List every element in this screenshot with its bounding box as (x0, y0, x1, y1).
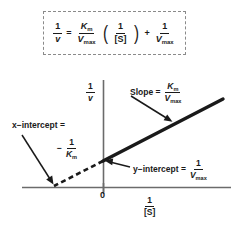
regression-line-solid (103, 99, 223, 161)
y-intercept-annotation-text: y−intercept = (133, 165, 186, 174)
y-intercept-arrow (105, 158, 131, 167)
extrapolation-line-dashed (54, 161, 103, 186)
x-intercept-numerator: 1 (67, 138, 76, 149)
x-intercept-minus-sign: − (57, 144, 62, 153)
y-axis-label-denominator: v (86, 93, 95, 103)
x-axis-label-fraction: 1 [S] (142, 196, 157, 217)
x-intercept-fraction: 1 Km (64, 138, 79, 159)
x-axis-label: 1 [S] (142, 196, 157, 217)
slope-annotation: Slope = Km Vmax (130, 82, 183, 103)
slope-annotation-fraction: Km Vmax (162, 82, 183, 103)
y-intercept-fraction: 1 Vmax (188, 159, 209, 180)
y-axis-label-fraction: 1 v (86, 82, 95, 103)
origin-tick-label: 0 (100, 191, 105, 200)
y-axis-label: 1 v (86, 82, 95, 103)
y-intercept-numerator: 1 (194, 159, 203, 170)
x-intercept-arrow (22, 135, 54, 185)
slope-annotation-text: Slope = (130, 88, 160, 97)
y-intercept-denominator: Vmax (188, 170, 209, 180)
y-axis-label-numerator: 1 (86, 82, 95, 93)
y-intercept-annotation: y−intercept = 1 Vmax (133, 159, 209, 180)
lineweaver-burk-figure: 1 v = Km Vmax ( 1 [S] ) + 1 Vmax (0, 0, 233, 229)
x-intercept-annotation-value: − 1 Km (57, 138, 79, 159)
x-axis-label-numerator: 1 (145, 196, 154, 207)
slope-numerator: Km (165, 82, 180, 93)
slope-denominator: Vmax (162, 93, 183, 103)
x-intercept-annotation-text: x−intercept = (12, 121, 65, 130)
x-axis-label-denominator: [S] (142, 207, 157, 217)
x-intercept-denominator: Km (64, 149, 79, 159)
plot-canvas (0, 0, 233, 229)
